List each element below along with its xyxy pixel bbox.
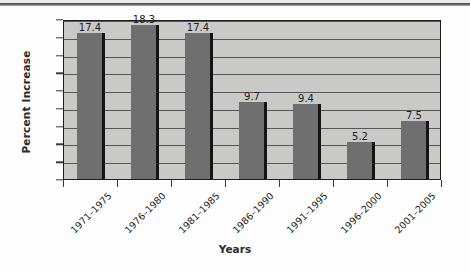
bar-value-label: 5.2 <box>352 131 368 142</box>
bar-value-label: 17.4 <box>187 22 209 33</box>
x-tick-mark <box>279 180 280 187</box>
x-tick-mark <box>171 180 172 187</box>
y-tick-mark <box>56 161 63 162</box>
x-tick-mark <box>333 180 334 187</box>
y-tick-mark <box>56 90 63 91</box>
x-tick-mark <box>117 180 118 187</box>
y-tick-mark <box>56 126 63 127</box>
y-tick-mark <box>56 37 63 38</box>
y-tick-mark <box>56 179 63 180</box>
y-tick-mark <box>56 73 63 74</box>
x-tick-mark <box>225 180 226 187</box>
x-tick-mark <box>387 180 388 187</box>
x-axis-title: Years <box>0 243 470 255</box>
x-tick-mark <box>63 180 64 187</box>
y-axis-title: Percent Increase <box>20 32 32 172</box>
y-tick-mark <box>56 108 63 109</box>
bar-value-label: 9.4 <box>298 93 314 104</box>
bar-value-label: 7.5 <box>406 110 422 121</box>
bar-value-label: 18.3 <box>133 14 155 25</box>
y-tick-mark <box>56 144 63 145</box>
y-tick-mark <box>56 55 63 56</box>
y-tick-mark <box>56 19 63 20</box>
bar-value-label: 17.4 <box>79 22 101 33</box>
bar-value-label: 9.7 <box>244 91 260 102</box>
bar-chart-figure: Percent Increase 135791113151719 17.418.… <box>0 0 470 273</box>
x-tick-mark <box>441 180 442 187</box>
